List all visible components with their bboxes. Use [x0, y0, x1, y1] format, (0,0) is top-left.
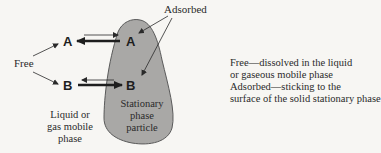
species-a-adsorbed: A [126, 34, 136, 49]
mobile-phase-label-3: phase [58, 133, 82, 144]
stationary-phase-label-3: particle [126, 122, 158, 133]
free-pointer-a [33, 44, 58, 56]
free-pointer-b [33, 72, 58, 84]
stationary-phase-label-1: Stationary [120, 98, 164, 109]
legend-free-line-1: Free—dissolved in the liquid [230, 57, 375, 69]
species-a-free: A [63, 34, 73, 49]
legend-adsorbed-line-2: surface of the solid stationary phase [230, 93, 375, 105]
species-b-adsorbed: B [126, 78, 135, 93]
legend-adsorbed-line-1: Adsorbed—sticking to the [230, 81, 375, 93]
stationary-phase-label-2: phase [130, 110, 154, 121]
species-b-free: B [63, 78, 72, 93]
legend: Free—dissolved in the liquid or gaseous … [230, 57, 375, 105]
legend-free-line-2: or gaseous mobile phase [230, 69, 375, 81]
mobile-phase-label-2: gas mobile [47, 121, 93, 132]
mobile-phase-label-1: Liquid or [50, 109, 90, 120]
free-label: Free [14, 57, 34, 69]
adsorbed-label: Adsorbed [164, 3, 207, 15]
